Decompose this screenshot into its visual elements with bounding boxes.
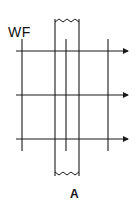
strip-bottom-break (55, 172, 79, 175)
strip-label-a: A (70, 187, 79, 201)
horizontal-arrows (16, 51, 128, 139)
break-strip (55, 19, 79, 176)
wf-label: WF (8, 24, 31, 40)
strip-top-break (55, 19, 79, 22)
